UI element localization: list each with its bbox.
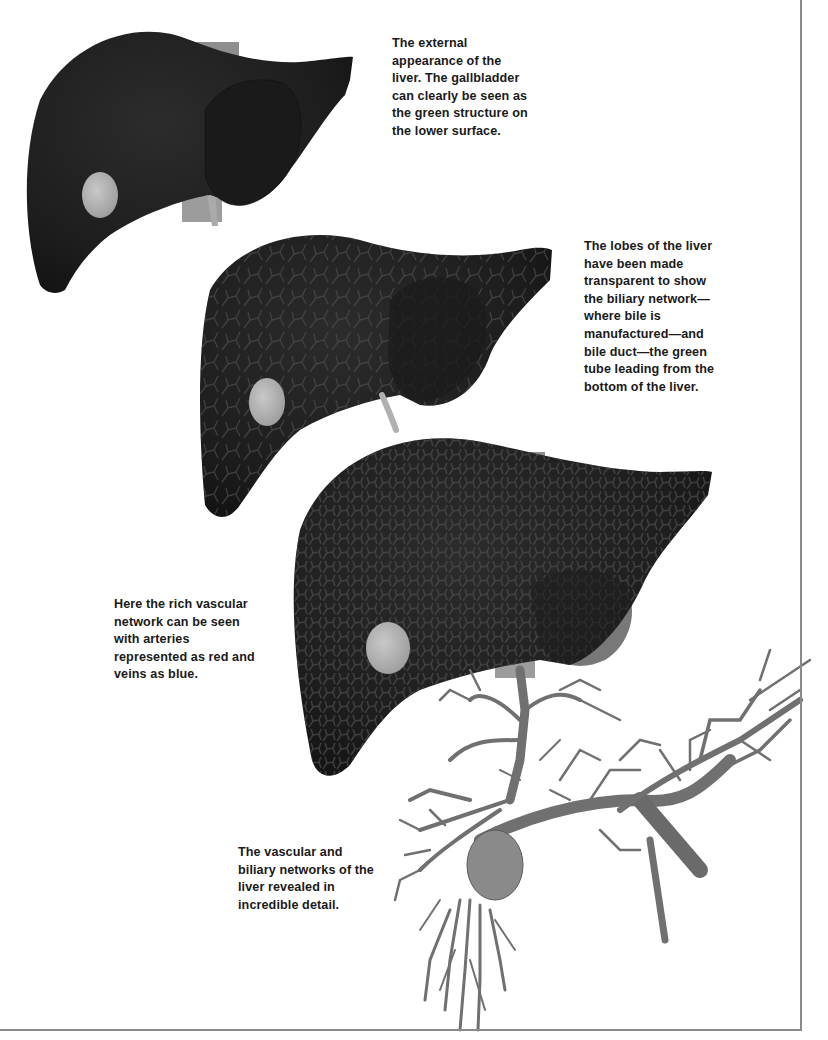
page-frame-bottom	[0, 1029, 802, 1031]
caption-line: veins as blue.	[114, 666, 255, 684]
caption-line: tube leading from the	[584, 361, 714, 379]
caption-line: where bile is	[584, 308, 714, 326]
caption-line: manufactured—and	[584, 326, 714, 344]
caption-line: biliary networks of the	[238, 862, 374, 880]
caption-line: represented as red and	[114, 649, 255, 667]
vascular-biliary-tree-figure	[395, 650, 810, 1030]
caption-line: network can be seen	[114, 614, 255, 632]
caption-line: Here the rich vascular	[114, 596, 255, 614]
caption-line: incredible detail.	[238, 897, 374, 915]
caption-line: the biliary network—	[584, 291, 714, 309]
liver-vascular-figure	[294, 438, 712, 776]
page-frame-right	[800, 0, 802, 1031]
caption-line: liver revealed in	[238, 879, 374, 897]
caption-line: transparent to show	[584, 273, 714, 291]
caption-line: The external	[392, 35, 528, 53]
caption-line: bile duct—the green	[584, 344, 714, 362]
bile-duct-shape	[382, 395, 396, 430]
caption-networks-revealed: The vascular and biliary networks of the…	[238, 844, 374, 914]
caption-line: have been made	[584, 256, 714, 274]
caption-lobes-transparent: The lobes of the liver have been made tr…	[584, 238, 714, 396]
caption-line: liver. The gallbladder	[392, 70, 528, 88]
caption-line: can clearly be seen as	[392, 88, 528, 106]
caption-line: The lobes of the liver	[584, 238, 714, 256]
caption-line: The vascular and	[238, 844, 374, 862]
gallbladder-shape	[82, 172, 118, 218]
caption-line: with arteries	[114, 631, 255, 649]
liver-illustrations	[0, 0, 828, 1040]
caption-external-appearance: The external appearance of the liver. Th…	[392, 35, 528, 141]
caption-line: the lower surface.	[392, 123, 528, 141]
caption-line: appearance of the	[392, 53, 528, 71]
caption-line: the green structure on	[392, 105, 528, 123]
tree-gallbladder-shape	[467, 830, 523, 900]
caption-vascular-network: Here the rich vascular network can be se…	[114, 596, 255, 684]
caption-line: bottom of the liver.	[584, 379, 714, 397]
